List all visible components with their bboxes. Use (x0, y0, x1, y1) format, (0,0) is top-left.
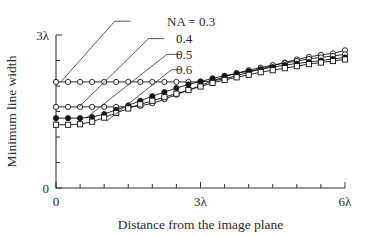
data-point-square (234, 75, 239, 80)
data-point-filled-circle (53, 116, 58, 121)
data-point-open-circle (174, 79, 179, 84)
legend-label-1: 0.4 (176, 31, 193, 46)
data-point-square (77, 122, 82, 127)
data-point-square (162, 95, 167, 100)
data-point-square (90, 119, 95, 124)
data-point-open-circle (114, 79, 119, 84)
data-point-filled-circle (186, 82, 191, 87)
data-point-square (246, 72, 251, 77)
data-point-square (282, 66, 287, 71)
data-point-open-circle (53, 79, 58, 84)
data-point-open-circle (53, 104, 58, 109)
data-point-square (53, 122, 58, 127)
chart-axes (56, 35, 345, 188)
line-chart: 03λ6λ03λDistance from the image planeMin… (0, 0, 369, 237)
figure-container: 03λ6λ03λDistance from the image planeMin… (0, 0, 369, 237)
legend-label-3: 0.6 (176, 62, 193, 77)
data-point-square (126, 106, 131, 111)
data-point-square (270, 68, 275, 73)
data-point-square (186, 87, 191, 92)
y-tick-label-0: 0 (43, 181, 50, 196)
data-point-open-circle (77, 104, 82, 109)
data-point-open-circle (90, 104, 95, 109)
x-tick-label-2: 6λ (339, 194, 353, 209)
x-axis-title: Distance from the image plane (118, 217, 284, 232)
data-point-square (306, 61, 311, 66)
data-point-open-circle (65, 104, 70, 109)
legend-label-2: 0.5 (176, 47, 192, 62)
y-tick-label-1: 3λ (36, 28, 50, 43)
leader-line (61, 21, 131, 82)
data-point-square (102, 115, 107, 120)
data-point-square (222, 77, 227, 82)
data-point-filled-circle (174, 85, 179, 90)
data-point-filled-circle (162, 90, 167, 95)
data-point-open-circle (138, 79, 143, 84)
data-point-square (294, 64, 299, 69)
data-point-square (258, 70, 263, 75)
data-point-open-circle (162, 79, 167, 84)
x-tick-label-0: 0 (53, 194, 60, 209)
chart-series-layer (53, 48, 347, 128)
data-point-square (210, 80, 215, 85)
data-point-open-circle (90, 79, 95, 84)
series-line (56, 50, 345, 82)
data-point-square (174, 91, 179, 96)
data-point-filled-circle (198, 79, 203, 84)
y-axis-title: Minimum line width (4, 55, 19, 167)
data-point-square (330, 58, 335, 63)
series-0-6 (53, 57, 347, 127)
data-point-square (138, 102, 143, 107)
data-point-open-circle (65, 79, 70, 84)
data-point-filled-circle (65, 116, 70, 121)
legend-label-0: NA = 0.3 (167, 14, 215, 29)
data-point-open-circle (77, 79, 82, 84)
data-point-filled-circle (77, 116, 82, 121)
x-tick-label-1: 3λ (194, 194, 208, 209)
data-point-square (318, 60, 323, 65)
axis-lines (56, 35, 345, 188)
data-point-square (65, 122, 70, 127)
data-point-square (198, 84, 203, 89)
data-point-square (150, 98, 155, 103)
data-point-square (342, 57, 347, 62)
